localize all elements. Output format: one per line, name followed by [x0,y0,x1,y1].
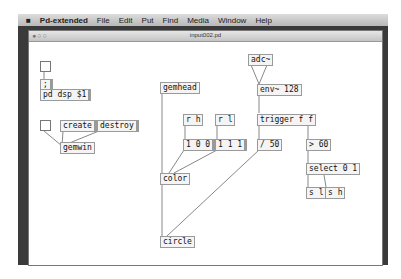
object-env[interactable]: env~ 128 [257,84,302,96]
object-receive-l[interactable]: r l [215,114,235,126]
object-color[interactable]: color [160,173,190,185]
patch-window: ●○○ input002.pd [28,30,383,266]
apple-icon[interactable]: ■ [26,16,31,25]
object-send-h[interactable]: s h [325,187,345,199]
object-adc[interactable]: adc~ [248,54,273,66]
object-send-l[interactable]: s l [306,187,326,199]
message-1-1-1[interactable]: 1 1 1 [215,139,247,151]
menu-help[interactable]: Help [255,16,271,25]
menu-media[interactable]: Media [187,16,209,25]
object-gemwin[interactable]: gemwin [60,142,95,154]
message-pd-dsp[interactable]: pd dsp $1 [40,89,91,101]
message-1-0-0[interactable]: 1 0 0 [183,139,215,151]
menu-app-name[interactable]: Pd-extended [40,16,88,25]
menu-file[interactable]: File [97,16,110,25]
object-divide[interactable]: / 50 [257,139,282,151]
object-trigger[interactable]: trigger f f [257,114,316,126]
object-circle[interactable]: circle [160,236,195,248]
menubar: ■ Pd-extended File Edit Put Find Media W… [18,14,388,26]
toggle-gemwin[interactable] [40,120,51,131]
object-greater-than[interactable]: > 60 [306,139,331,151]
message-create[interactable]: create [60,120,97,132]
object-select[interactable]: select 0 1 [306,163,360,175]
patch-canvas[interactable]: ; pd dsp $1 create destroy gemwin gemhea… [29,42,382,265]
menu-put[interactable]: Put [142,16,154,25]
menu-edit[interactable]: Edit [119,16,133,25]
object-gemhead[interactable]: gemhead [160,82,200,94]
window-title: input002.pd [29,32,382,38]
message-destroy[interactable]: destroy [97,120,139,132]
menu-window[interactable]: Window [218,16,246,25]
toggle-dsp[interactable] [40,61,51,72]
object-receive-h[interactable]: r h [183,114,203,126]
window-titlebar[interactable]: ●○○ input002.pd [29,31,382,42]
menu-find[interactable]: Find [163,16,179,25]
